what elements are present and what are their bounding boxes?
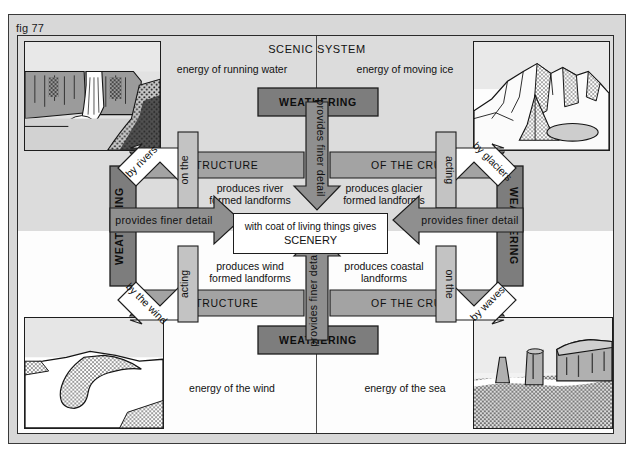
provides-left-label: provides finer detail xyxy=(115,214,212,226)
verb-wind-label: acting xyxy=(178,270,190,298)
figure-page: fig 77 xyxy=(0,0,641,457)
provides-bottom-label: provides finer detail xyxy=(307,249,319,346)
diagram-frame: WEATHERING WEATHERING WEATHERING WEATHER… xyxy=(17,35,614,434)
verb-glaciers-label: acting xyxy=(444,156,456,184)
scenery-box: with coat of living things gives SCENERY xyxy=(233,213,388,254)
verb-rivers-label: on the xyxy=(178,155,190,184)
scenery-line-1: with coat of living things gives xyxy=(245,221,377,232)
provides-top-label: provides finer detail xyxy=(315,99,327,196)
verb-column-glaciers: acting xyxy=(436,132,456,208)
figure-label: fig 77 xyxy=(16,22,44,34)
verb-column-wind: acting xyxy=(178,246,198,322)
verb-column-rivers: on the xyxy=(178,132,198,208)
provides-right-label: provides finer detail xyxy=(421,214,518,226)
verb-column-waves: on the xyxy=(436,246,456,322)
verb-waves-label: on the xyxy=(444,269,456,298)
scenery-line-2: SCENERY xyxy=(284,234,337,246)
